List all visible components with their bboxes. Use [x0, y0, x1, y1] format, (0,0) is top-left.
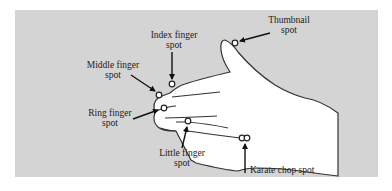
label-line: Karate chop spot — [250, 165, 314, 175]
little-finger-label: Little finger spot — [152, 148, 212, 168]
label-line: Middle finger — [80, 60, 146, 70]
label-line: Index finger — [144, 30, 204, 40]
label-line: Little finger — [152, 148, 212, 158]
label-line: Ring finger — [84, 108, 136, 118]
karate-chop-spot-right — [244, 135, 250, 141]
label-line: spot — [80, 70, 146, 80]
ring-finger-spot — [161, 105, 167, 111]
middle-finger-label: Middle finger spot — [80, 60, 146, 80]
thumbnail-spot — [232, 40, 238, 46]
thumbnail-label: Thumbnail spot — [262, 15, 316, 35]
little-finger-spot — [185, 118, 191, 124]
label-line: spot — [152, 158, 212, 168]
ring-finger-label: Ring finger spot — [84, 108, 136, 128]
label-line: spot — [262, 25, 316, 35]
karate-chop-label: Karate chop spot — [250, 165, 314, 175]
middle-finger-spot — [156, 92, 162, 98]
index-finger-label: Index finger spot — [144, 30, 204, 50]
label-line: spot — [84, 118, 136, 128]
label-line: spot — [144, 40, 204, 50]
label-line: Thumbnail — [262, 15, 316, 25]
index-finger-spot — [169, 81, 175, 87]
